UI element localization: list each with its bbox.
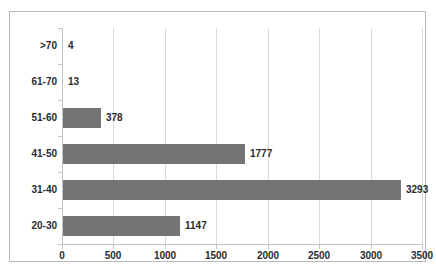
x-tick-1500	[216, 245, 217, 249]
gridline-500	[113, 28, 114, 244]
bar-label-20-30: 1147	[185, 216, 207, 236]
y-tick-5	[58, 208, 62, 209]
x-tick-1000	[165, 245, 166, 249]
bar-20-30[interactable]	[62, 216, 180, 236]
x-tick-2000	[268, 245, 269, 249]
gridline-1000	[165, 28, 166, 244]
x-tick-3500	[422, 245, 423, 249]
bar-label-51-60: 378	[106, 108, 123, 128]
y-axis-label-51-60: 51-60	[17, 112, 57, 124]
x-axis-label-2500: 2500	[308, 250, 330, 262]
x-axis-label-2000: 2000	[257, 250, 279, 262]
x-axis-label-0: 0	[59, 250, 65, 262]
plot-area: 4 13 378 1777 3293 1147	[62, 28, 422, 244]
gridline-2500	[319, 28, 320, 244]
x-axis-label-3000: 3000	[360, 250, 382, 262]
x-axis-line	[62, 244, 423, 245]
y-axis-label-41-50: 41-50	[17, 148, 57, 160]
gridline-3000	[371, 28, 372, 244]
y-axis-label-gt70: >70	[17, 40, 57, 52]
gridline-2000	[268, 28, 269, 244]
x-tick-0	[62, 245, 63, 249]
x-tick-2500	[319, 245, 320, 249]
y-tick-4	[58, 172, 62, 173]
y-tick-1	[58, 64, 62, 65]
y-tick-2	[58, 100, 62, 101]
gridline-3500	[422, 28, 423, 244]
bar-label-61-70: 13	[68, 72, 79, 92]
x-axis-label-1000: 1000	[154, 250, 176, 262]
bar-31-40[interactable]	[62, 180, 401, 200]
y-tick-3	[58, 136, 62, 137]
y-axis-label-61-70: 61-70	[17, 76, 57, 88]
x-axis-label-1500: 1500	[205, 250, 227, 262]
y-axis-line	[62, 28, 63, 245]
y-axis-label-20-30: 20-30	[17, 220, 57, 232]
gridline-1500	[216, 28, 217, 244]
y-tick-top	[58, 28, 62, 29]
x-tick-500	[113, 245, 114, 249]
bar-label-gt70: 4	[68, 36, 74, 56]
x-tick-3000	[371, 245, 372, 249]
x-axis-label-3500: 3500	[411, 250, 433, 262]
y-axis-label-31-40: 31-40	[17, 184, 57, 196]
x-axis-label-500: 500	[105, 250, 122, 262]
bar-label-31-40: 3293	[406, 180, 428, 200]
bar-51-60[interactable]	[62, 108, 101, 128]
bar-chart: 4 13 378 1777 3293 1147	[0, 0, 436, 273]
bar-label-41-50: 1777	[250, 144, 272, 164]
chart-frame: 4 13 378 1777 3293 1147	[9, 11, 426, 262]
bar-41-50[interactable]	[62, 144, 245, 164]
